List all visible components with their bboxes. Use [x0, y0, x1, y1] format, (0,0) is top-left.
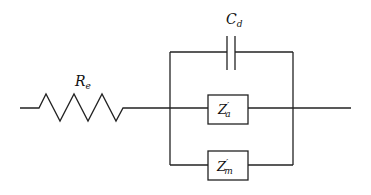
resistor-re	[20, 94, 170, 121]
impedance-za-label: Z′a	[217, 100, 231, 119]
resistor-zigzag	[20, 94, 170, 121]
capacitor-cd	[170, 36, 293, 70]
impedance-za	[170, 95, 351, 124]
resistor-label: Re	[74, 73, 91, 91]
capacitor-label: Cd	[226, 11, 243, 29]
impedance-zm-label: Z′m	[216, 157, 233, 176]
circuit-diagram: Re Cd Z′a Z′m	[0, 0, 371, 195]
